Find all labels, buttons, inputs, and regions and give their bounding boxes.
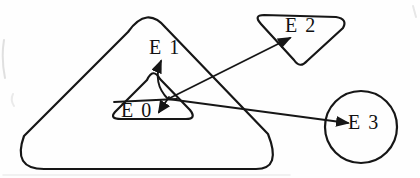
e0-label: E 0 [121,99,153,121]
outer-triangle [21,17,273,169]
scan-artifacts [3,6,416,175]
diagram-page: E 1 E 0 E 2 E 3 [0,0,420,178]
arrow-to-e2 [168,38,290,99]
arrow-to-e1 [158,61,168,99]
e3-label: E 3 [348,111,380,133]
diagram-canvas: E 1 E 0 E 2 E 3 [0,0,420,178]
arrow-to-e3 [168,99,348,123]
e1-label: E 1 [149,36,181,58]
e2-label: E 2 [285,14,317,36]
